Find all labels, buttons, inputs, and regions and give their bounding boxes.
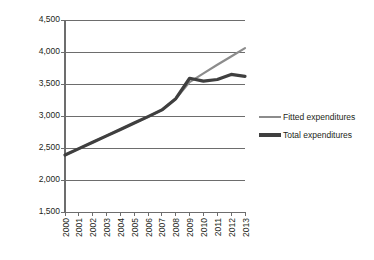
- x-axis-tick-label: 2010: [199, 218, 210, 252]
- legend-entry[interactable]: Total expenditures: [259, 126, 374, 144]
- y-axis-tick-label: 3,500: [24, 79, 60, 88]
- x-axis-tick-label: 2002: [88, 218, 99, 252]
- y-axis-tick-label: 4,500: [24, 15, 60, 24]
- y-axis-tick-label: 3,000: [24, 111, 60, 120]
- plot-area: [65, 20, 245, 212]
- legend-entry[interactable]: Fitted expenditures: [259, 108, 374, 126]
- x-axis-tick-label: 2004: [116, 218, 127, 252]
- legend-label: Fitted expenditures: [283, 112, 355, 122]
- x-axis-tick-label: 2005: [130, 218, 141, 252]
- line-chart: Million euro 1,5002,0002,5003,0003,5004,…: [0, 0, 374, 260]
- x-axis-tick-label: 2001: [74, 218, 85, 252]
- y-axis-tick-labels: 1,5002,0002,5003,0003,5004,0004,500: [20, 0, 60, 260]
- series-line-fitted-expenditures: [65, 48, 245, 155]
- y-axis-tick-label: 2,000: [24, 175, 60, 184]
- legend-swatch-icon: [259, 133, 281, 136]
- x-axis-tick-label: 2009: [185, 218, 196, 252]
- series-line-total-expenditures: [65, 74, 245, 155]
- y-axis-tick-label: 1,500: [24, 207, 60, 216]
- plot-svg: [65, 20, 251, 214]
- x-axis-tick-label: 2012: [227, 218, 238, 252]
- x-axis-tick-label: 2000: [61, 218, 72, 252]
- x-axis-tick-labels: 2000200120022003200420052006200720082009…: [65, 214, 249, 260]
- x-axis-tick-label: 2003: [102, 218, 113, 252]
- x-axis-tick-label: 2013: [241, 218, 252, 252]
- x-axis-tick-label: 2008: [171, 218, 182, 252]
- y-axis-tick-label: 4,000: [24, 47, 60, 56]
- legend-swatch-icon: [259, 116, 281, 118]
- x-axis-tick-label: 2011: [213, 218, 224, 252]
- chart-legend: Fitted expendituresTotal expenditures: [259, 108, 374, 144]
- y-axis-tick-label: 2,500: [24, 143, 60, 152]
- x-axis-tick-label: 2006: [144, 218, 155, 252]
- x-axis-tick-label: 2007: [157, 218, 168, 252]
- legend-label: Total expenditures: [283, 130, 352, 140]
